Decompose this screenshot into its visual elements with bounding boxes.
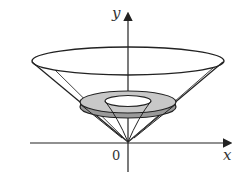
washer-cross-section	[80, 91, 176, 118]
x-axis-label: x	[223, 146, 232, 164]
origin-label: 0	[112, 148, 120, 163]
solid-of-revolution-diagram: y x 0	[0, 0, 244, 182]
y-axis-label: y	[111, 4, 121, 22]
